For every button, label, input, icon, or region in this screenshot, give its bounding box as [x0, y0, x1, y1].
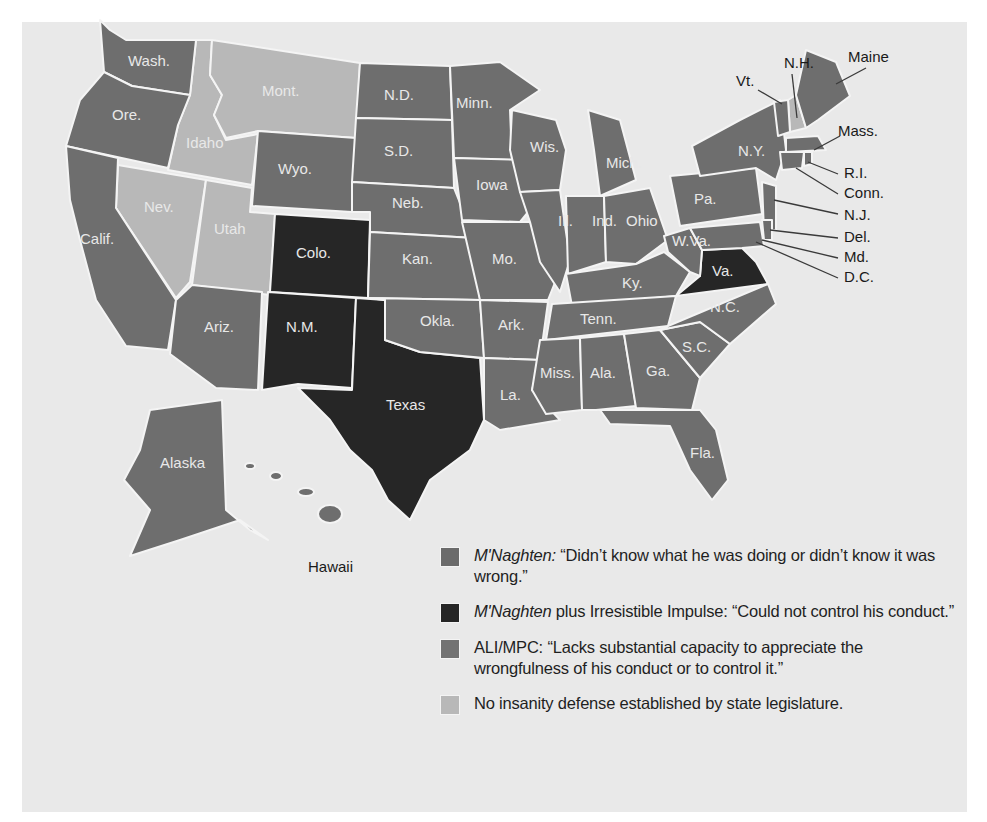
label-alaska: Alaska — [160, 454, 206, 471]
label-fla: Fla. — [690, 444, 715, 461]
label-vt: Vt. — [736, 72, 754, 89]
label-sd: S.D. — [384, 142, 413, 159]
label-ky: Ky. — [622, 274, 643, 291]
label-wash: Wash. — [128, 52, 170, 69]
state-michigan — [588, 110, 636, 196]
label-nev: Nev. — [144, 198, 174, 215]
label-nm: N.M. — [286, 318, 318, 335]
legend-item-mnaghten: M'Naghten: “Didn’t know what he was doin… — [440, 545, 960, 587]
label-sc: S.C. — [682, 338, 711, 355]
label-mich: Mich. — [606, 154, 642, 171]
state-hawaii — [245, 463, 342, 523]
label-ariz: Ariz. — [204, 318, 234, 335]
swatch-alimpc — [440, 639, 460, 659]
legend-text: M'Naghten plus Irresistible Impulse: “Co… — [474, 601, 954, 622]
swatch-none — [440, 695, 460, 715]
state-alaska — [124, 400, 268, 556]
label-del: Del. — [844, 228, 871, 245]
state-vermont — [774, 100, 790, 136]
label-ark: Ark. — [498, 316, 525, 333]
label-hawaii: Hawaii — [308, 558, 353, 575]
label-ore: Ore. — [112, 106, 141, 123]
label-tenn: Tenn. — [580, 310, 617, 327]
state-connecticut — [780, 152, 804, 170]
label-mont: Mont. — [262, 82, 300, 99]
label-la: La. — [500, 386, 521, 403]
label-texas: Texas — [386, 396, 425, 413]
swatch-mnaghten — [440, 547, 460, 567]
label-ind: Ind. — [592, 212, 617, 229]
label-neb: Neb. — [392, 194, 424, 211]
label-dc: D.C. — [844, 268, 874, 285]
label-ga: Ga. — [646, 362, 670, 379]
label-calif: Calif. — [80, 230, 114, 247]
label-nj: N.J. — [844, 206, 871, 223]
state-indiana — [566, 196, 606, 274]
label-colo: Colo. — [296, 244, 331, 261]
label-ri: R.I. — [844, 164, 867, 181]
legend-item-none: No insanity defense established by state… — [440, 693, 960, 715]
label-nc: N.C. — [710, 298, 740, 315]
label-minn: Minn. — [456, 94, 493, 111]
label-mo: Mo. — [492, 250, 517, 267]
label-ill: Ill. — [558, 212, 573, 229]
label-ala: Ala. — [590, 364, 616, 381]
label-okla: Okla. — [420, 312, 455, 329]
label-wis: Wis. — [530, 138, 559, 155]
label-conn: Conn. — [844, 184, 884, 201]
legend-text: M'Naghten: “Didn’t know what he was doin… — [474, 545, 960, 587]
label-pa: Pa. — [694, 190, 717, 207]
state-arizona — [170, 285, 262, 390]
label-iowa: Iowa — [476, 176, 508, 193]
label-mass: Mass. — [838, 122, 878, 139]
state-massachusetts — [786, 136, 826, 152]
legend: M'Naghten: “Didn’t know what he was doin… — [440, 545, 960, 729]
label-ohio: Ohio — [626, 212, 658, 229]
label-miss: Miss. — [540, 364, 575, 381]
swatch-irresistible — [440, 603, 460, 623]
label-wyo: Wyo. — [278, 160, 312, 177]
legend-text: ALI/MPC: “Lacks substantial capacity to … — [474, 637, 960, 679]
legend-item-alimpc: ALI/MPC: “Lacks substantial capacity to … — [440, 637, 960, 679]
label-nd: N.D. — [384, 86, 414, 103]
label-idaho: Idaho — [186, 134, 224, 151]
state-rhode-island — [804, 152, 812, 166]
legend-text: No insanity defense established by state… — [474, 693, 843, 714]
label-wva: W.Va. — [672, 232, 711, 249]
label-utah: Utah — [214, 220, 246, 237]
label-kan: Kan. — [402, 250, 433, 267]
state-new-york — [692, 100, 786, 180]
label-md: Md. — [844, 248, 869, 265]
label-va: Va. — [712, 262, 733, 279]
label-ny: N.Y. — [738, 142, 765, 159]
legend-item-irresistible: M'Naghten plus Irresistible Impulse: “Co… — [440, 601, 960, 623]
label-nh: N.H. — [784, 54, 814, 71]
state-new-mexico — [262, 292, 356, 390]
label-maine: Maine — [848, 48, 889, 65]
